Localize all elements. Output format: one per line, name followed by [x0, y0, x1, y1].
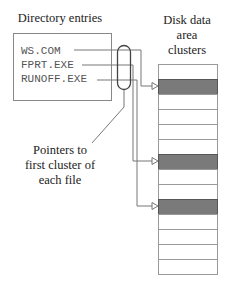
cluster [159, 125, 218, 140]
callout-line-3: each file [39, 173, 82, 187]
directory-entry-fprt-exe: FPRT.EXE [21, 59, 74, 71]
callout-leader-line-diagonal [92, 107, 124, 143]
cluster-shaded [159, 155, 218, 170]
pointer-group-capsule [118, 46, 131, 90]
disk-cluster-column [159, 65, 218, 275]
callout-line-2: first cluster of [25, 158, 96, 172]
arrow-head-icon [152, 203, 158, 210]
cluster [159, 95, 218, 110]
directory-title: Directory entries [18, 11, 102, 25]
arrow-head-icon [152, 83, 158, 90]
arrow-head-icon [152, 158, 158, 165]
cluster [159, 110, 218, 125]
cluster-shaded [159, 80, 218, 95]
cluster [159, 65, 218, 80]
cluster [159, 185, 218, 200]
cluster [159, 170, 218, 185]
cluster [159, 260, 218, 275]
disk-title-line-3: clusters [168, 43, 206, 57]
cluster [159, 215, 218, 230]
directory-cluster-diagram: Directory entries WS.COM FPRT.EXE RUNOFF… [0, 0, 227, 287]
directory-entry-ws-com: WS.COM [21, 45, 61, 57]
cluster [159, 140, 218, 155]
disk-title-line-1: Disk data [163, 13, 211, 27]
callout-line-1: Pointers to [33, 143, 87, 157]
cluster [159, 230, 218, 245]
cluster [159, 245, 218, 260]
disk-title-line-2: area [177, 28, 198, 42]
directory-entry-runoff-exe: RUNOFF.EXE [21, 73, 87, 85]
arrowheads [152, 83, 158, 210]
cluster-shaded [159, 200, 218, 215]
